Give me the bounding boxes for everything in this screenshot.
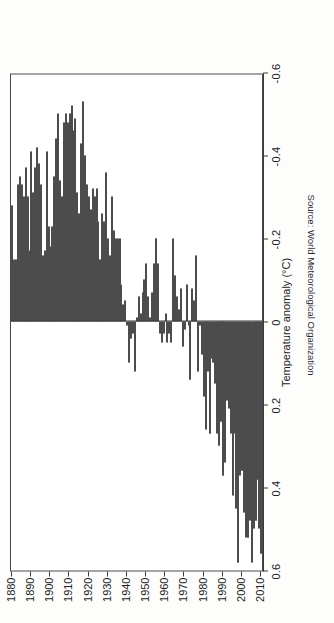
year-tick (68, 571, 69, 576)
year-tick-label: 1900 (43, 577, 55, 601)
bar (189, 321, 191, 379)
bar (157, 263, 159, 321)
value-tick (263, 155, 268, 156)
year-tick-label: 1960 (158, 577, 170, 601)
value-tick (263, 487, 268, 488)
year-tick (145, 571, 146, 576)
year-tick-label: 1980 (197, 577, 209, 601)
year-tick (164, 571, 165, 576)
plot-area (10, 73, 263, 571)
figure-page: Source: World Meteorological Organizatio… (0, 0, 334, 623)
bar-series (11, 74, 262, 570)
bar (134, 321, 136, 371)
year-tick-label: 2010 (254, 577, 266, 601)
value-tick (263, 570, 268, 571)
value-tick (263, 72, 268, 73)
year-tick (126, 571, 127, 576)
bar (195, 255, 197, 321)
source-note: Source: World Meteorological Organizatio… (306, 194, 317, 375)
bar (170, 321, 172, 342)
year-tick-label: 1910 (62, 577, 74, 601)
year-tick (11, 571, 12, 576)
year-tick-label: 1950 (139, 577, 151, 601)
year-tick-label: 2000 (235, 577, 247, 601)
year-tick (30, 571, 31, 576)
year-tick (107, 571, 108, 576)
year-tick-label: 1880 (5, 577, 17, 601)
year-tick (183, 571, 184, 576)
year-axis: 1880189019001910192019301940195019601970… (10, 570, 263, 571)
bar (163, 321, 165, 333)
year-tick (203, 571, 204, 576)
year-tick-label: 1990 (216, 577, 228, 601)
year-tick (49, 571, 50, 576)
value-axis-title: Temperature anomaly (°C) (280, 73, 292, 571)
year-tick (260, 571, 261, 576)
year-tick-label: 1970 (177, 577, 189, 601)
value-tick (263, 404, 268, 405)
bar (186, 284, 188, 321)
year-tick (222, 571, 223, 576)
rotated-figure-group: Source: World Meteorological Organizatio… (0, 0, 334, 623)
bar (197, 321, 199, 371)
bar (124, 300, 126, 321)
value-tick (263, 321, 268, 322)
year-tick-label: 1890 (24, 577, 36, 601)
year-tick (241, 571, 242, 576)
zero-baseline (11, 320, 262, 321)
year-tick-label: 1920 (82, 577, 94, 601)
year-tick-label: 1930 (101, 577, 113, 601)
year-tick-label: 1940 (120, 577, 132, 601)
bar (184, 321, 186, 329)
value-axis: 0.60.40.20-0.2-0.4-0.6 (263, 73, 264, 571)
temperature-anomaly-chart: Source: World Meteorological Organizatio… (6, 63, 296, 623)
value-tick (263, 238, 268, 239)
bar (180, 288, 182, 321)
year-tick (88, 571, 89, 576)
